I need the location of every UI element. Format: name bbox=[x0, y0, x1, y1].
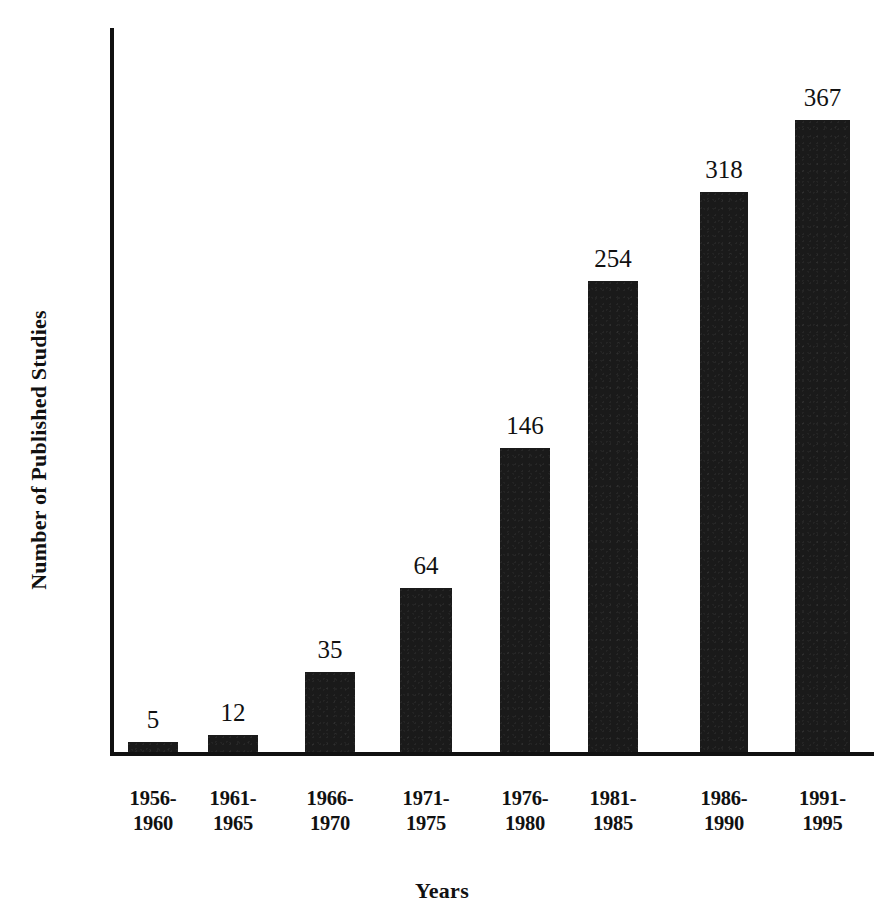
bar-chart: Number of Published Studies 512356414625… bbox=[0, 0, 884, 923]
x-axis-tick-label: 1971-1975 bbox=[378, 786, 474, 836]
bar-value-label: 146 bbox=[478, 413, 572, 438]
x-axis-tick-label: 1991-1995 bbox=[775, 786, 871, 836]
bar-group: 5 bbox=[128, 698, 178, 752]
x-axis-tick-label: 1981-1985 bbox=[565, 786, 661, 836]
bar-value-label: 318 bbox=[678, 157, 770, 182]
bar-group: 146 bbox=[500, 404, 550, 752]
bar bbox=[500, 448, 550, 752]
bar bbox=[795, 120, 850, 752]
bar bbox=[305, 672, 355, 752]
x-axis-tick-label: 1966-1970 bbox=[282, 786, 378, 836]
bar-group: 254 bbox=[588, 237, 638, 752]
bar-value-label: 35 bbox=[283, 637, 377, 662]
x-axis-tick-label: 1976-1980 bbox=[477, 786, 573, 836]
plot-area: 5123564146254318367 bbox=[0, 0, 884, 756]
bar bbox=[400, 588, 452, 752]
x-axis-tick-label: 1961-1965 bbox=[185, 786, 281, 836]
bar bbox=[128, 742, 178, 752]
bar-value-label: 12 bbox=[186, 700, 280, 725]
x-axis-tick-label: 1986-1990 bbox=[676, 786, 772, 836]
bar bbox=[208, 735, 258, 752]
bar-value-label: 254 bbox=[566, 246, 660, 271]
bar-group: 318 bbox=[700, 148, 748, 752]
bar-value-label: 367 bbox=[773, 85, 872, 110]
bar-group: 367 bbox=[795, 76, 850, 752]
bar-group: 35 bbox=[305, 628, 355, 752]
bar-value-label: 64 bbox=[378, 553, 474, 578]
bar bbox=[588, 281, 638, 752]
bar-group: 64 bbox=[400, 544, 452, 752]
bar bbox=[700, 192, 748, 752]
bar-group: 12 bbox=[208, 691, 258, 752]
x-axis-title: Years bbox=[112, 878, 772, 904]
